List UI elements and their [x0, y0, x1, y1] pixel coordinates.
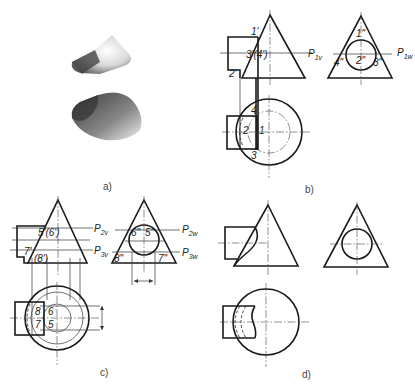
- plane-p2v: P2v: [94, 223, 109, 236]
- plane-p1w: P1w: [397, 47, 414, 60]
- plane-p3v: P3v: [94, 245, 109, 258]
- label-top-4: 4: [251, 105, 257, 116]
- label-3dprime: 3": [373, 57, 383, 68]
- panel-b-side-view: [328, 12, 392, 85]
- technical-drawing: a) 1' 3'(4') 2' P1v 1" 2" 3" 4" P1w 4 2 …: [0, 0, 415, 389]
- label-2dprime: 2": [355, 55, 366, 66]
- label-2prime: 2': [228, 68, 238, 79]
- plane-p3w: P3w: [182, 247, 199, 260]
- panel-b-front-view: [220, 10, 312, 150]
- label-5dprime: 5": [145, 227, 155, 238]
- caption-a: a): [103, 181, 112, 192]
- label-1dprime: 1": [356, 28, 366, 39]
- label-top-2: 2: [242, 125, 249, 136]
- plane-p1v: P1v: [308, 48, 323, 61]
- label-top-1: 1: [259, 125, 265, 136]
- label-5prime-6prime: 5'(6'): [38, 227, 60, 238]
- label-3prime-4prime: 3'(4'): [246, 49, 268, 60]
- panel-d-top-view: [220, 283, 310, 367]
- panel-c-front-view: [10, 196, 93, 300]
- panel-d-side-view: [324, 202, 388, 275]
- label-6dprime: 6": [131, 227, 141, 238]
- caption-b: b): [305, 184, 314, 195]
- plane-p2w: P2w: [182, 224, 199, 237]
- caption-d: d): [302, 369, 311, 380]
- label-7dprime: 7": [158, 253, 168, 264]
- label-8prime: (8'): [34, 253, 48, 264]
- label-8dprime: 8": [114, 253, 124, 264]
- label-top-6: 6: [48, 306, 54, 317]
- caption-c: c): [100, 367, 108, 378]
- label-top-3: 3: [251, 150, 257, 161]
- label-1prime: 1': [251, 26, 260, 37]
- label-top-5: 5: [48, 319, 54, 330]
- label-top-7: 7: [35, 319, 41, 330]
- label-4dprime: 4": [334, 57, 344, 68]
- panel-b-top-view: [222, 95, 310, 178]
- panel-a-render: [72, 35, 142, 140]
- panel-c-side-view: [112, 196, 180, 285]
- panel-c-top-view: [10, 282, 104, 365]
- label-7prime: 7': [24, 246, 33, 257]
- label-top-8: 8: [35, 306, 41, 317]
- panel-d-front-view: [218, 200, 298, 275]
